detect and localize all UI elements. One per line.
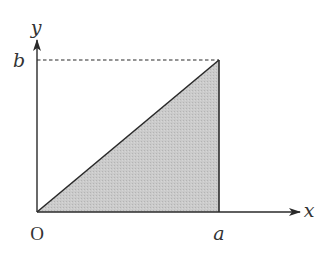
x-axis-label: x [304,199,315,221]
triangle-region-diagram: y b O a x [0,0,324,259]
y-axis-label: y [30,16,42,38]
origin-label: O [30,223,44,244]
a-label: a [213,222,224,244]
b-label: b [13,49,25,71]
